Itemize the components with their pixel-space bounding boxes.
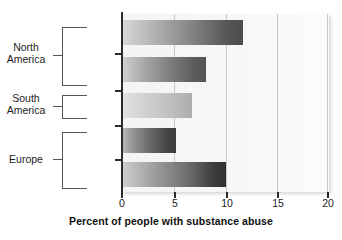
bar-germany [122,128,176,153]
x-ticklabel-20: 20 [318,197,338,209]
bracket-stem-north-america [53,55,62,56]
bracket-stem-europe [53,159,62,160]
region-label-north-america-line2: America [0,54,52,66]
x-ticklabel-10: 10 [217,197,237,209]
x-ticklabel-5: 5 [165,197,185,209]
bar-canada [122,57,206,82]
bar-netherlands [122,162,226,187]
gridline-20 [327,14,328,192]
x-ticklabel-15: 15 [268,197,288,209]
bracket-north-america [62,27,87,86]
x-ticklabel-0: 0 [112,197,132,209]
category-tick-4 [115,159,122,161]
region-label-south-america-line1: South [0,93,52,105]
gridline-15 [277,14,278,192]
bar-chile [122,93,192,118]
region-label-north-america: North America [0,42,52,65]
region-label-south-america-line2: America [0,105,52,117]
bracket-south-america [62,95,87,119]
bracket-stem-south-america [53,106,62,107]
region-label-south-america: South America [0,93,52,116]
x-axis-title: Percent of people with substance abuse [0,215,342,227]
category-tick-1 [115,53,122,55]
region-label-europe: Europe [0,154,52,166]
bar-usa [122,20,243,45]
category-tick-2 [115,90,122,92]
substance-abuse-bar-chart: U.S.A. Canada Chile Germany Netherlands … [0,0,342,240]
bracket-europe [62,132,87,189]
category-tick-3 [115,125,122,127]
plot-area [122,14,329,192]
region-label-north-america-line1: North [0,42,52,54]
y-axis-line [121,12,123,194]
